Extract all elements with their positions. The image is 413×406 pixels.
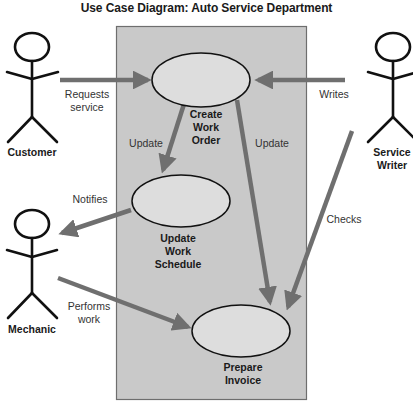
relationship-label-writes: Writes	[314, 88, 354, 101]
actor-mechanic-icon	[7, 210, 57, 318]
relationship-label-update-schedule: Update	[126, 137, 166, 150]
diagram-canvas	[0, 0, 413, 406]
relationship-label-text: Update	[255, 137, 289, 149]
use-case-label-line: Prepare	[213, 361, 273, 374]
actor-label-text: Mechanic	[8, 323, 56, 335]
use-case-label-line: Invoice	[213, 374, 273, 387]
actor-label-service-writer: Service Writer	[362, 146, 413, 172]
actor-label-text: Customer	[7, 146, 56, 158]
relationship-label-text: Checks	[326, 213, 361, 225]
relationship-label-line: Performs	[64, 300, 114, 313]
relationship-label-text: Notifies	[72, 193, 107, 205]
use-case-label-prepare-invoice: Prepare Invoice	[213, 361, 273, 387]
actor-service-writer-icon	[368, 33, 413, 142]
relationship-label-text: Update	[129, 137, 163, 149]
use-case-label-line: Order	[176, 134, 236, 147]
actor-label-line: Service	[362, 146, 413, 159]
use-case-create-work-order	[152, 53, 250, 107]
relationship-label-line: service	[62, 101, 112, 114]
relationship-label-checks: Checks	[324, 213, 364, 226]
relationship-label-line: Requests	[62, 88, 112, 101]
use-case-update-work-schedule	[132, 175, 230, 227]
use-case-label-line: Update	[148, 232, 208, 245]
actor-customer-icon	[7, 33, 58, 142]
relationship-label-notifies: Notifies	[70, 193, 110, 206]
relationship-label-line: work	[64, 313, 114, 326]
use-case-label-line: Work	[148, 245, 208, 258]
use-case-label-line: Create	[176, 108, 236, 121]
relationship-label-update-invoice: Update	[252, 137, 292, 150]
use-case-label-line: Work	[176, 121, 236, 134]
relationship-label-text: Writes	[319, 88, 349, 100]
actor-label-customer: Customer	[2, 146, 62, 159]
relationship-label-performs-work: Performs work	[64, 300, 114, 326]
actor-label-line: Writer	[362, 159, 413, 172]
use-case-prepare-invoice	[192, 305, 290, 357]
actor-label-mechanic: Mechanic	[2, 323, 62, 336]
use-case-label-update-work-schedule: Update Work Schedule	[148, 232, 208, 271]
use-case-label-create-work-order: Create Work Order	[176, 108, 236, 147]
relationship-label-requests-service: Requests service	[62, 88, 112, 114]
use-case-label-line: Schedule	[148, 258, 208, 271]
